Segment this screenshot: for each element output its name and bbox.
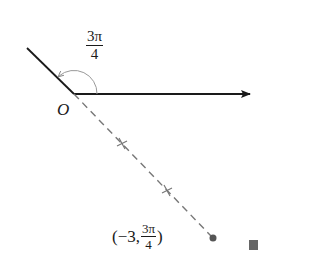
point-dot [210,235,217,242]
dashed-ray [74,94,213,238]
origin-label: O [57,100,69,120]
angle-arc [59,70,97,94]
end-of-example-marker [249,240,258,250]
point-label: (−3, 3π 4 ) [112,222,163,251]
angle-label: 3π 4 [86,28,103,62]
